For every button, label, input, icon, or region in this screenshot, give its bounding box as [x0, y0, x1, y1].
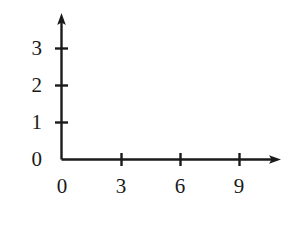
chart-canvas: 0 1 2 3 0 3 6 9	[0, 0, 303, 226]
x-tick-label-0: 0	[57, 176, 68, 197]
y-tick-label-0: 0	[14, 149, 42, 170]
x-tick-label-6: 6	[175, 176, 186, 197]
x-tick-label-3: 3	[116, 176, 127, 197]
y-tick-label-2: 2	[14, 75, 42, 96]
y-tick-label-3: 3	[14, 38, 42, 59]
y-tick-label-1: 1	[14, 112, 42, 133]
axes-diagram	[0, 0, 303, 226]
x-tick-label-9: 9	[234, 176, 245, 197]
